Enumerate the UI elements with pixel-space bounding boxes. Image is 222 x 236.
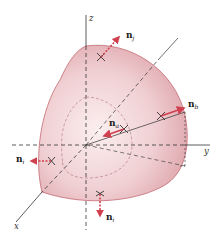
- normal-label-subscript: i: [113, 216, 115, 223]
- normal-label-top: nj: [126, 31, 134, 41]
- z-axis-label: z: [89, 14, 93, 23]
- normal-label-center: na: [109, 119, 119, 129]
- normal-label-subscript: j: [133, 34, 135, 41]
- diagonal: [158, 38, 178, 60]
- normal-label-subscript: b: [195, 103, 199, 110]
- x-axis-label: x: [14, 222, 19, 231]
- normal-label-subscript: i: [23, 158, 25, 165]
- normal-label-subscript: a: [116, 122, 120, 129]
- normal-label-left: ni: [16, 155, 24, 165]
- x-axis: [16, 192, 42, 222]
- y-axis-label: y: [204, 147, 209, 156]
- normal-label-right: nb: [188, 100, 198, 110]
- normal-label-bottom: ni: [106, 213, 114, 223]
